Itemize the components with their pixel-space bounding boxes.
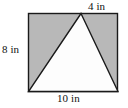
dimension-label-left: 8 in [2, 44, 19, 55]
dimension-label-bottom: 10 in [57, 93, 80, 104]
dimension-label-top: 4 in [88, 1, 105, 12]
geometry-figure: 4 in 8 in 10 in [0, 0, 128, 108]
